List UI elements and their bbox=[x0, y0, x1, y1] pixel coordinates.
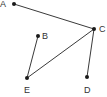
node-label-b: B bbox=[42, 31, 48, 41]
node-label-a: A bbox=[0, 0, 6, 9]
node-label-d: D bbox=[84, 85, 91, 95]
nodes-group bbox=[12, 2, 96, 80]
node-d bbox=[85, 75, 89, 79]
graph-diagram: ABCDE bbox=[0, 0, 107, 97]
edge-a-c bbox=[14, 4, 94, 29]
node-e bbox=[25, 76, 29, 80]
graph-canvas: ABCDE bbox=[0, 0, 107, 97]
node-label-e: E bbox=[24, 85, 30, 95]
node-a bbox=[12, 2, 16, 6]
edges-group bbox=[14, 4, 94, 78]
edge-c-d bbox=[87, 29, 94, 77]
node-c bbox=[92, 27, 96, 31]
node-b bbox=[36, 34, 40, 38]
node-label-c: C bbox=[99, 24, 106, 34]
labels-group: ABCDE bbox=[0, 0, 106, 95]
